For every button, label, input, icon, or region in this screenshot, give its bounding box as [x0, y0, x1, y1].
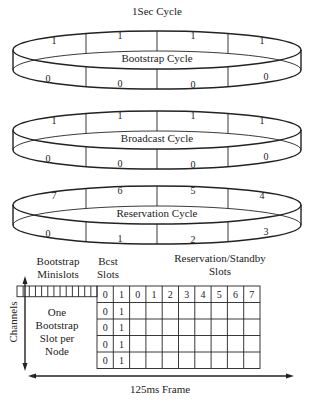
ring-bottom-value: 0: [264, 71, 269, 82]
ring-bottom-value: 0: [191, 159, 196, 170]
diagram-title: 1Sec Cycle: [132, 5, 182, 17]
ring-label: Bootstrap Cycle: [121, 52, 192, 64]
bcst-slot-cell: 0: [103, 339, 108, 350]
slot-number: 3: [184, 289, 189, 300]
ring-bottom-value: 0: [46, 228, 51, 239]
ring-bottom-value: 0: [46, 73, 51, 84]
bcst-slots-header: Bcst: [98, 255, 118, 267]
bcst-slot-cell: 1: [119, 355, 124, 366]
bootstrap-note: One: [48, 306, 66, 318]
ring-reservation-cycle: Reservation Cycle76540123: [13, 185, 301, 245]
tdma-frame-diagram: 1Sec Cycle Bootstrap Cycle11110000Broadc…: [0, 0, 313, 401]
ring-label: Broadcast Cycle: [121, 132, 194, 144]
ring-top-value: 1: [118, 30, 123, 41]
bootstrap-note: Node: [45, 345, 69, 357]
slot-number: 5: [217, 289, 222, 300]
ring-bottom-value: 3: [264, 226, 269, 237]
bcst-slot-cell: 1: [119, 306, 124, 317]
ring-bottom-value: 0: [118, 158, 123, 169]
reservation-standby-header: Reservation/Standby: [174, 252, 266, 264]
bcst-slot-cell: 0: [103, 322, 108, 333]
ring-top-value: 1: [52, 35, 57, 46]
slot-number: 2: [168, 289, 173, 300]
slot-number: 1: [152, 289, 157, 300]
ring-top-value: 1: [191, 30, 196, 41]
arrow-up-icon: [23, 276, 28, 284]
slot-number: 1: [119, 289, 124, 300]
frame-grid: BootstrapMinislotsBcstSlotsReservation/S…: [7, 252, 294, 395]
ring-top-value: 1: [118, 110, 123, 121]
ring-top-value: 4: [260, 190, 265, 201]
channels-label: Channels: [7, 302, 19, 343]
bcst-slots-header: Slots: [97, 268, 119, 280]
ring-top-value: 1: [191, 110, 196, 121]
ring-top-value: 7: [52, 190, 57, 201]
slot-number: 4: [200, 289, 205, 300]
ring-bottom-value: 1: [118, 233, 123, 244]
ring-bottom-value: 0: [191, 79, 196, 90]
frame-label: 125ms Frame: [130, 383, 190, 395]
ring-top-value: 1: [52, 115, 57, 126]
bootstrap-minislots-header: Minislots: [37, 268, 79, 280]
ring-bottom-value: 0: [46, 153, 51, 164]
slot-number: 6: [233, 289, 238, 300]
ring-bootstrap-cycle: Bootstrap Cycle11110000: [13, 30, 301, 90]
arrow-right-icon: [286, 374, 294, 379]
bcst-slot-cell: 1: [119, 339, 124, 350]
bootstrap-minislots-header: Bootstrap: [37, 255, 80, 267]
slot-number: 7: [249, 289, 254, 300]
bootstrap-note: Bootstrap: [36, 319, 79, 331]
bcst-slot-cell: 1: [119, 322, 124, 333]
arrow-down-icon: [23, 363, 28, 371]
bootstrap-note: Slot per: [40, 332, 75, 344]
slot-number: 0: [135, 289, 140, 300]
bcst-slot-cell: 0: [103, 355, 108, 366]
ring-bottom-value: 0: [264, 151, 269, 162]
arrow-left-icon: [28, 374, 36, 379]
ring-broadcast-cycle: Broadcast Cycle11110000: [13, 110, 301, 170]
cycle-rings: Bootstrap Cycle11110000Broadcast Cycle11…: [13, 30, 301, 245]
ring-top-value: 5: [191, 185, 196, 196]
ring-label: Reservation Cycle: [117, 207, 198, 219]
ring-top-value: 1: [260, 35, 265, 46]
ring-top-value: 1: [260, 115, 265, 126]
ring-bottom-value: 0: [118, 78, 123, 89]
reservation-standby-header: Slots: [209, 265, 231, 277]
ring-bottom-value: 2: [191, 234, 196, 245]
slot-number: 0: [103, 289, 108, 300]
ring-top-value: 6: [118, 185, 123, 196]
diagram-canvas: 1Sec Cycle Bootstrap Cycle11110000Broadc…: [0, 0, 313, 401]
bcst-slot-cell: 0: [103, 306, 108, 317]
